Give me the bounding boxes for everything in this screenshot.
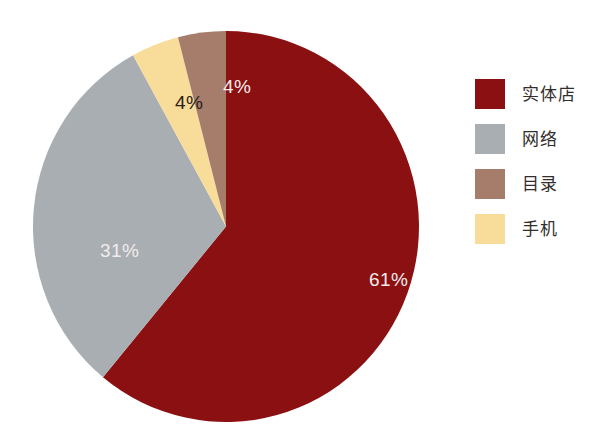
legend-swatch-web [475,124,505,154]
legend-label-catalog: 目录 [522,176,558,193]
legend-swatch-catalog [475,169,505,199]
legend-swatch-store [475,79,505,109]
legend-label-web: 网络 [522,131,558,148]
legend-label-mobile: 手机 [522,221,558,238]
legend-item-store[interactable]: 实体店 [475,79,605,109]
legend-label-store: 实体店 [522,86,576,103]
legend-item-catalog[interactable]: 目录 [475,169,605,199]
legend-item-mobile[interactable]: 手机 [475,214,605,244]
legend-item-web[interactable]: 网络 [475,124,605,154]
pie-slices-group [33,31,419,422]
pie-chart-figure: 61% 31% 4% 4% 实体店 网络 目录 手机 [0,0,616,448]
pie-svg [33,31,419,422]
legend-swatch-mobile [475,214,505,244]
chart-legend: 实体店 网络 目录 手机 [475,79,605,244]
pie-chart-plot-area: 61% 31% 4% 4% [33,31,419,422]
